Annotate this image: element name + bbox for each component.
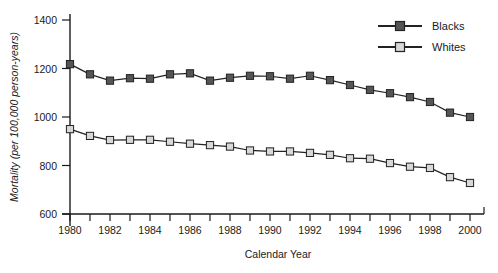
x-tick-label-1996: 1996 (378, 224, 402, 236)
marker-whites-1982 (106, 136, 113, 143)
marker-blacks-1992 (306, 72, 313, 79)
series-line-blacks (70, 64, 470, 117)
x-tick-label-1990: 1990 (258, 224, 282, 236)
marker-whites-1988 (226, 143, 233, 150)
x-tick-label-1980: 1980 (58, 224, 82, 236)
marker-blacks-1984 (146, 75, 153, 82)
legend-label-blacks: Blacks (432, 20, 465, 32)
series-whites (66, 126, 473, 187)
y-tick-label-1000: 1000 (34, 111, 58, 123)
marker-blacks-1982 (106, 77, 113, 84)
marker-whites-1997 (406, 163, 413, 170)
marker-blacks-1996 (386, 90, 393, 97)
marker-blacks-1993 (326, 77, 333, 84)
legend-marker-blacks (396, 22, 405, 31)
marker-whites-2000 (466, 179, 473, 186)
marker-whites-1995 (366, 155, 373, 162)
marker-whites-1981 (86, 132, 93, 139)
legend-label-whites: Whites (432, 41, 466, 53)
marker-whites-1993 (326, 151, 333, 158)
x-tick-label-1984: 1984 (138, 224, 162, 236)
marker-whites-1994 (346, 155, 353, 162)
marker-whites-1985 (166, 138, 173, 145)
chart-canvas: 6008001000120014001980198219841986198819… (0, 0, 498, 273)
x-tick-label-1994: 1994 (338, 224, 362, 236)
series-blacks (66, 61, 473, 121)
marker-blacks-1998 (426, 98, 433, 105)
marker-blacks-1991 (286, 75, 293, 82)
marker-blacks-1994 (346, 81, 353, 88)
marker-blacks-1981 (86, 71, 93, 78)
x-tick-label-1988: 1988 (218, 224, 242, 236)
marker-whites-1983 (126, 136, 133, 143)
mortality-trend-chart: 6008001000120014001980198219841986198819… (0, 0, 498, 273)
x-tick-label-1992: 1992 (298, 224, 322, 236)
marker-blacks-1989 (246, 72, 253, 79)
marker-blacks-1986 (186, 70, 193, 77)
marker-whites-1989 (246, 147, 253, 154)
marker-whites-1991 (286, 148, 293, 155)
y-tick-label-600: 600 (39, 208, 57, 220)
marker-whites-1987 (206, 142, 213, 149)
marker-blacks-1997 (406, 94, 413, 101)
legend-marker-whites (396, 43, 405, 52)
y-tick-label-800: 800 (39, 160, 57, 172)
marker-blacks-1985 (166, 71, 173, 78)
marker-blacks-2000 (466, 113, 473, 120)
marker-blacks-1987 (206, 77, 213, 84)
marker-blacks-1995 (366, 86, 373, 93)
y-tick-label-1200: 1200 (34, 63, 58, 75)
y-axis-title: Mortality (per 100,000 person-years) (8, 32, 20, 202)
marker-blacks-1983 (126, 75, 133, 82)
y-tick-label-1400: 1400 (34, 14, 58, 26)
x-axis-title: Calendar Year (245, 248, 312, 260)
marker-blacks-1988 (226, 74, 233, 81)
x-tick-label-1998: 1998 (418, 224, 442, 236)
marker-whites-1984 (146, 136, 153, 143)
marker-blacks-1999 (446, 109, 453, 116)
marker-whites-1998 (426, 164, 433, 171)
marker-whites-1990 (266, 148, 273, 155)
marker-blacks-1980 (66, 61, 73, 68)
marker-whites-1986 (186, 140, 193, 147)
x-tick-label-2000: 2000 (458, 224, 482, 236)
marker-whites-1980 (66, 126, 73, 133)
marker-whites-1992 (306, 149, 313, 156)
marker-whites-1999 (446, 174, 453, 181)
marker-whites-1996 (386, 159, 393, 166)
legend: BlacksWhites (378, 20, 466, 53)
x-tick-label-1982: 1982 (98, 224, 122, 236)
marker-blacks-1990 (266, 73, 273, 80)
x-tick-label-1986: 1986 (178, 224, 202, 236)
